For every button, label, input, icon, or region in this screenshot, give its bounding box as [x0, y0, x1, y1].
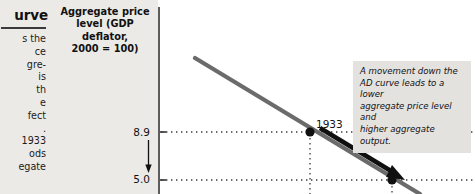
data-point-1933	[305, 127, 314, 136]
annotation-callout: A movement down the AD curve leads to a …	[353, 61, 471, 153]
data-point-label-1933: 1933	[316, 118, 343, 130]
figure-panel: urve s the ce gre- is th e fect . 1933 o…	[0, 0, 475, 194]
caption-divider	[1, 27, 46, 29]
price-decline-arrow-icon	[144, 140, 153, 173]
y-axis-title: Aggregate price level (GDP deflator, 200…	[52, 6, 158, 56]
caption-body: s the ce gre- is th e fect . 1933 ods eg…	[0, 33, 50, 174]
y-tick-label-5-0: 5.0	[116, 173, 150, 185]
left-caption-column: urve s the ce gre- is th e fect . 1933 o…	[0, 0, 52, 194]
data-point-lower	[387, 175, 396, 184]
y-tick-label-8-9: 8.9	[116, 126, 150, 138]
caption-heading: urve	[0, 7, 52, 23]
